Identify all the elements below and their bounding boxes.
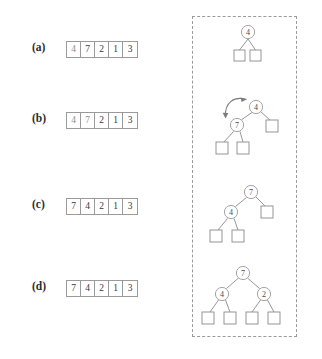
tree-edge <box>252 300 261 312</box>
array-b: 4 7 2 1 3 <box>66 112 138 129</box>
array-cell: 1 <box>109 42 123 57</box>
array-cell: 1 <box>109 113 123 128</box>
tree-node-value: 4 <box>229 208 233 217</box>
tree-leaf <box>210 230 222 242</box>
tree-edge <box>210 300 219 312</box>
array-cell: 7 <box>67 281 81 296</box>
tree-node-value: 4 <box>254 103 258 112</box>
array-cell: 3 <box>123 113 137 128</box>
tree-leaf <box>232 230 244 242</box>
tree-edge <box>242 112 253 120</box>
tree-edge <box>248 39 256 50</box>
tree-node-value: 7 <box>249 188 253 197</box>
tree-a: 4 <box>196 20 294 76</box>
tree-edge <box>240 39 249 50</box>
tree-edge <box>268 300 275 312</box>
tree-leaf <box>266 120 278 132</box>
tree-edge <box>236 198 247 207</box>
row-a: (a) 4 7 2 1 3 4 <box>0 0 322 90</box>
row-d: (d) 7 4 2 1 3 7 4 2 <box>0 262 322 352</box>
tree-leaf <box>216 142 228 154</box>
tree-edge <box>224 132 234 143</box>
tree-c: 7 4 <box>196 182 294 254</box>
array-cell: 2 <box>95 42 109 57</box>
array-a: 4 7 2 1 3 <box>66 41 138 58</box>
row-label-a: (a) <box>32 41 45 53</box>
tree-edge <box>226 300 231 312</box>
tree-node-value: 7 <box>235 121 239 130</box>
array-cell: 7 <box>67 199 81 214</box>
array-cell: 7 <box>81 42 95 57</box>
swap-arrow-icon <box>223 97 247 118</box>
tree-node-value: 4 <box>220 290 224 299</box>
figure-canvas: (a) 4 7 2 1 3 4 (b) 4 7 2 1 3 <box>0 0 322 359</box>
tree-leaf <box>202 312 214 324</box>
tree-edge <box>248 278 260 289</box>
array-c: 7 4 2 1 3 <box>66 198 138 215</box>
tree-node-value: 4 <box>246 28 250 37</box>
tree-b: 4 7 <box>196 90 294 168</box>
tree-edge <box>227 278 239 289</box>
array-cell: 2 <box>95 199 109 214</box>
row-label-c: (c) <box>32 198 45 210</box>
array-cell: 4 <box>81 199 95 214</box>
tree-node-value: 2 <box>262 290 266 299</box>
row-c: (c) 7 4 2 1 3 7 4 <box>0 178 322 264</box>
tree-edge <box>261 112 271 121</box>
tree-node-value: 7 <box>241 269 245 278</box>
array-cell: 3 <box>123 42 137 57</box>
tree-leaf <box>250 50 261 61</box>
tree-d: 7 4 2 <box>196 262 294 334</box>
array-cell: 2 <box>95 113 109 128</box>
tree-leaf <box>237 142 249 154</box>
tree-edge <box>234 219 238 231</box>
tree-edge <box>240 132 243 143</box>
row-label-d: (d) <box>32 280 46 292</box>
array-cell: 4 <box>67 42 81 57</box>
row-b: (b) 4 7 2 1 3 4 7 <box>0 88 322 178</box>
tree-leaf <box>234 50 245 61</box>
array-cell: 2 <box>95 281 109 296</box>
tree-leaf <box>268 312 280 324</box>
array-cell: 3 <box>123 281 137 296</box>
row-label-b: (b) <box>32 112 46 124</box>
tree-leaf <box>224 312 236 324</box>
array-d: 7 4 2 1 3 <box>66 280 138 297</box>
tree-edge <box>218 219 228 231</box>
tree-leaf <box>246 312 258 324</box>
array-cell: 4 <box>81 281 95 296</box>
tree-edge <box>256 197 266 207</box>
array-cell: 1 <box>109 199 123 214</box>
tree-leaf <box>261 206 273 218</box>
array-cell: 7 <box>81 113 95 128</box>
array-cell: 3 <box>123 199 137 214</box>
array-cell: 1 <box>109 281 123 296</box>
array-cell: 4 <box>67 113 81 128</box>
